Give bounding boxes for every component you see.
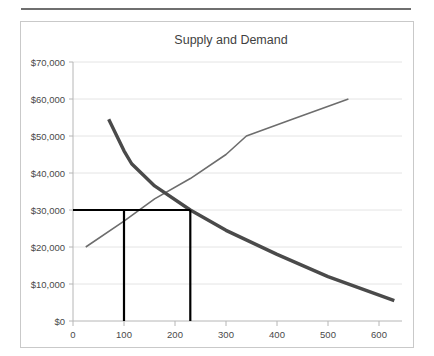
x-axis-label-0: 0: [70, 329, 75, 340]
chart-container: Supply and Demand: [20, 21, 414, 348]
y-tickmarks: [69, 62, 73, 321]
chart-title: Supply and Demand: [174, 33, 287, 47]
y-axis-label-50000: $50,000: [31, 131, 65, 142]
header-divider: [21, 8, 411, 10]
x-axis-label-200: 200: [167, 329, 183, 340]
reference-lines: [73, 210, 190, 321]
x-axis-label-600: 600: [371, 329, 387, 340]
x-axis-label-300: 300: [218, 329, 234, 340]
gridlines-horizontal: [73, 62, 402, 284]
y-axis-label-0: $0: [54, 316, 65, 327]
y-axis-labels: $70,000 $60,000 $50,000 $40,000 $30,000 …: [31, 57, 65, 327]
x-axis-label-400: 400: [269, 329, 285, 340]
y-axis-label-60000: $60,000: [31, 94, 65, 105]
y-axis-label-10000: $10,000: [31, 279, 65, 290]
x-axis-label-100: 100: [116, 329, 132, 340]
y-axis-label-40000: $40,000: [31, 168, 65, 179]
supply-and-demand-chart: Supply and Demand: [21, 22, 413, 347]
x-axis-label-500: 500: [320, 329, 336, 340]
x-axis-labels: 0 100 200 300 400 500 600: [70, 329, 387, 340]
x-tickmarks: [73, 321, 379, 326]
page-root: Supply and Demand: [0, 0, 434, 356]
y-axis-label-30000: $30,000: [31, 205, 65, 216]
y-axis-label-70000: $70,000: [31, 57, 65, 68]
y-axis-label-20000: $20,000: [31, 242, 65, 253]
